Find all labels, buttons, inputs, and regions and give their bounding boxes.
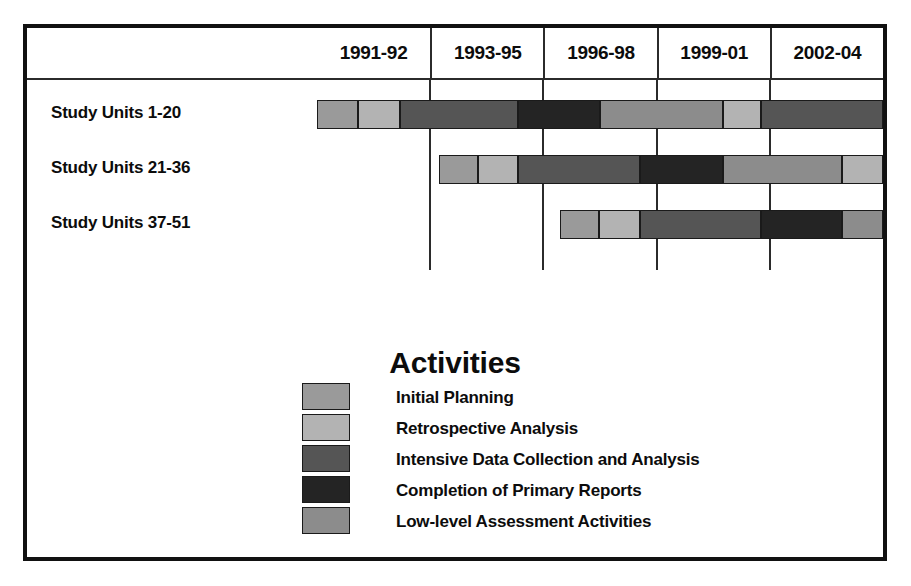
legend-swatch-low_level_assessment [302,507,350,534]
task-label-3: Study Units 37-51 [51,213,190,233]
period-label: 2002-04 [794,42,862,64]
gantt-chart-frame: 1991-921993-951996-981999-012002-04 Stud… [23,24,887,561]
task-label-1: Study Units 1-20 [51,103,181,123]
legend-swatch-intensive_data [302,445,350,472]
bar-segment-intensive_data [761,100,883,129]
bar-segment-retrospective_analysis [842,155,883,184]
period-label: 1991-92 [340,42,408,64]
period-header-1991-92: 1991-92 [317,28,430,78]
bar-track-2 [317,155,883,184]
bar-segment-low_level_assessment [723,155,842,184]
legend-label-intensive_data: Intensive Data Collection and Analysis [396,450,700,470]
period-header-1996-98: 1996-98 [543,28,656,78]
legend-label-completion_reports: Completion of Primary Reports [396,481,641,501]
bar-track-3 [317,210,883,239]
bar-segment-completion_reports [640,155,724,184]
bar-track-1 [317,100,883,129]
bar-segment-low_level_assessment [600,100,723,129]
period-header-1993-95: 1993-95 [430,28,543,78]
legend-swatch-completion_reports [302,476,350,503]
bar-segment-retrospective_analysis [723,100,761,129]
period-label: 1996-98 [567,42,635,64]
bar-segment-retrospective_analysis [599,210,639,239]
bar-segment-intensive_data [400,100,519,129]
legend-swatch-retrospective_analysis [302,414,350,441]
bar-segment-completion_reports [761,210,842,239]
legend-label-initial_planning: Initial Planning [396,388,514,408]
period-header-1999-01: 1999-01 [657,28,770,78]
bar-segment-intensive_data [518,155,639,184]
bar-segment-initial_planning [560,210,600,239]
bar-segment-retrospective_analysis [478,155,518,184]
period-header-2002-04: 2002-04 [770,28,883,78]
legend-title: Activities [27,346,883,380]
bar-segment-intensive_data [640,210,762,239]
legend-label-retrospective_analysis: Retrospective Analysis [396,419,578,439]
task-label-2: Study Units 21-36 [51,158,190,178]
bar-segment-completion_reports [518,100,600,129]
bar-segment-initial_planning [317,100,358,129]
bar-segment-low_level_assessment [842,210,883,239]
bar-segment-initial_planning [439,155,479,184]
period-label: 1993-95 [454,42,522,64]
period-label: 1999-01 [680,42,748,64]
legend-swatch-initial_planning [302,383,350,410]
bar-segment-retrospective_analysis [358,100,400,129]
period-header-row: 1991-921993-951996-981999-012002-04 [27,28,883,80]
legend-label-low_level_assessment: Low-level Assessment Activities [396,512,651,532]
